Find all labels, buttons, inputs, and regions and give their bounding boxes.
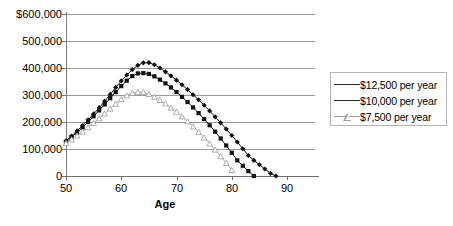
- legend-label-10000: $10,000 per year: [360, 95, 437, 107]
- y-tick-mark-400000: [62, 68, 66, 69]
- legend-item-10000[interactable]: $10,000 per year: [334, 93, 443, 109]
- x-axis-line: [62, 176, 319, 177]
- gridline-500000: [66, 41, 315, 42]
- y-tick-label-300000: 300,000: [0, 89, 62, 101]
- x-tick-mark-50: [66, 176, 67, 180]
- legend-label-12500: $12,500 per year: [360, 79, 437, 91]
- y-tick-label-100000: 100,000: [0, 143, 62, 155]
- y-tick-label-200000: 200,000: [0, 116, 62, 128]
- x-tick-label-80: 80: [212, 182, 252, 194]
- y-tick-mark-100000: [62, 149, 66, 150]
- y-tick-mark-500000: [62, 41, 66, 42]
- x-tick-mark-60: [121, 176, 122, 180]
- square-marker-icon: [334, 94, 360, 108]
- y-tick-label-600000: $600,000: [0, 8, 62, 20]
- x-tick-mark-90: [287, 176, 288, 180]
- x-tick-mark-70: [177, 176, 178, 180]
- triangle-marker-icon: [334, 110, 360, 124]
- legend: $12,500 per year $10,000 per year $7,500…: [330, 72, 447, 126]
- legend-item-7500[interactable]: $7,500 per year: [334, 109, 443, 125]
- plot-area: [66, 14, 315, 176]
- y-tick-label-500000: 500,000: [0, 35, 62, 47]
- legend-label-7500: $7,500 per year: [360, 111, 431, 123]
- gridline-300000: [66, 95, 315, 96]
- x-axis-title: Age: [0, 198, 330, 210]
- legend-item-12500[interactable]: $12,500 per year: [334, 77, 443, 93]
- diamond-marker-icon: [334, 78, 360, 92]
- x-tick-label-50: 50: [46, 182, 86, 194]
- x-tick-label-60: 60: [101, 182, 141, 194]
- gridline-100000: [66, 149, 315, 150]
- gridline-600000: [66, 14, 315, 15]
- gridline-400000: [66, 68, 315, 69]
- x-tick-mark-80: [232, 176, 233, 180]
- y-tick-label-0: 0: [0, 170, 62, 182]
- y-axis-line: [66, 12, 67, 180]
- y-tick-label-400000: 400,000: [0, 62, 62, 74]
- y-tick-mark-200000: [62, 122, 66, 123]
- y-tick-mark-300000: [62, 95, 66, 96]
- x-tick-label-90: 90: [267, 182, 307, 194]
- x-tick-label-70: 70: [157, 182, 197, 194]
- y-tick-mark-600000: [62, 14, 66, 15]
- chart-root: $600,000 500,000 400,000 300,000 200,000…: [0, 0, 453, 226]
- gridline-200000: [66, 122, 315, 123]
